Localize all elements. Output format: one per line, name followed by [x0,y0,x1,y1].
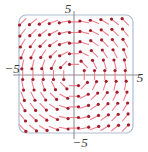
arrow-head [112,58,115,61]
arrow-head [24,130,27,133]
arrow-head [48,44,51,47]
arrow-head [28,23,31,26]
arrow-head [55,98,58,101]
arrow-head [44,98,47,101]
arrow-head [102,59,105,62]
arrow-head [68,52,71,55]
arrow-head [56,108,59,111]
arrow-head [68,63,71,66]
arrow-head [107,113,110,116]
field-arrow [73,74,74,75]
arrow-head [35,129,38,132]
arrow-head [111,48,114,51]
arrow-head [123,58,126,61]
arrow-head [90,49,93,52]
arrow-head [87,115,90,118]
arrow-head [111,38,114,41]
arrow-head [62,78,65,81]
arrow-head [56,118,59,121]
arrow-head [33,99,36,102]
arrow-head [78,30,81,33]
arrow-head [115,80,118,83]
arrow-head [68,20,71,23]
arrow-head [87,126,90,129]
axis-label-right: 5 [137,70,144,85]
arrow-head [39,56,42,59]
arrow-head [103,69,106,72]
arrow-head [83,69,86,72]
arrow-head [127,112,130,115]
arrow-head [122,48,125,51]
arrow-head [96,91,99,94]
arrow-head [18,34,21,37]
arrow-head [121,27,124,30]
axis-label-left: −5 [4,61,20,76]
arrow-head [23,109,26,112]
axis-label-top: 5 [65,1,72,16]
arrow-head [19,45,22,48]
arrow-head [121,17,124,20]
arrow-head [58,32,61,35]
arrow-head [68,42,71,45]
arrow-head [68,31,71,34]
arrow-head [86,81,89,84]
arrow-head [50,67,53,70]
arrow-head [97,125,100,128]
arrow-head [23,99,26,102]
arrow-head [106,91,109,94]
arrow-head [93,69,96,72]
arrow-head [78,40,81,43]
axis-label-bottom: −5 [72,135,88,150]
arrow-head [31,78,34,81]
arrow-head [127,123,130,126]
arrow-head [38,34,41,37]
arrow-head [89,29,92,32]
arrow-head [106,102,109,105]
arrow-head [38,23,41,26]
arrow-head [49,55,52,58]
arrow-head [45,129,48,132]
arrow-head [66,97,69,100]
arrow-head [45,108,48,111]
arrow-head [126,101,129,104]
arrow-head [115,91,118,94]
arrow-head [29,45,32,48]
arrow-head [45,119,48,122]
arrow-head [78,19,81,22]
arrow-head [20,67,23,70]
arrow-head [42,78,45,81]
arrow-head [77,95,80,98]
arrow-head [22,88,25,91]
arrow-head [48,33,51,36]
arrow-head [116,102,119,105]
arrow-head [32,88,35,91]
arrow-head [101,48,104,51]
arrow-head [91,59,94,62]
arrow-head [97,114,100,117]
vector-field-svg: 5 −5 −5 5 [0,0,148,152]
arrow-head [59,66,62,69]
arrow-head [89,19,92,22]
arrow-head [95,80,98,83]
arrow-head [30,67,33,70]
arrow-head [117,113,120,116]
arrow-head [79,60,82,63]
arrow-head [35,119,38,122]
arrow-head [24,119,27,122]
arrow-head [43,88,46,91]
arrow-head [107,124,110,127]
arrow-head [40,67,43,70]
arrow-head [29,56,32,59]
arrow-head [110,28,113,31]
arrow-head [56,128,59,131]
arrow-head [89,39,92,42]
arrow-head [125,90,128,93]
arrow-head [124,69,127,72]
arrow-head [100,28,103,31]
arrow-head [121,38,124,41]
arrow-head [65,87,68,90]
arrow-head [79,50,82,53]
arrow-head [100,38,103,41]
arrow-head [34,109,37,112]
arrow-head [58,21,61,24]
